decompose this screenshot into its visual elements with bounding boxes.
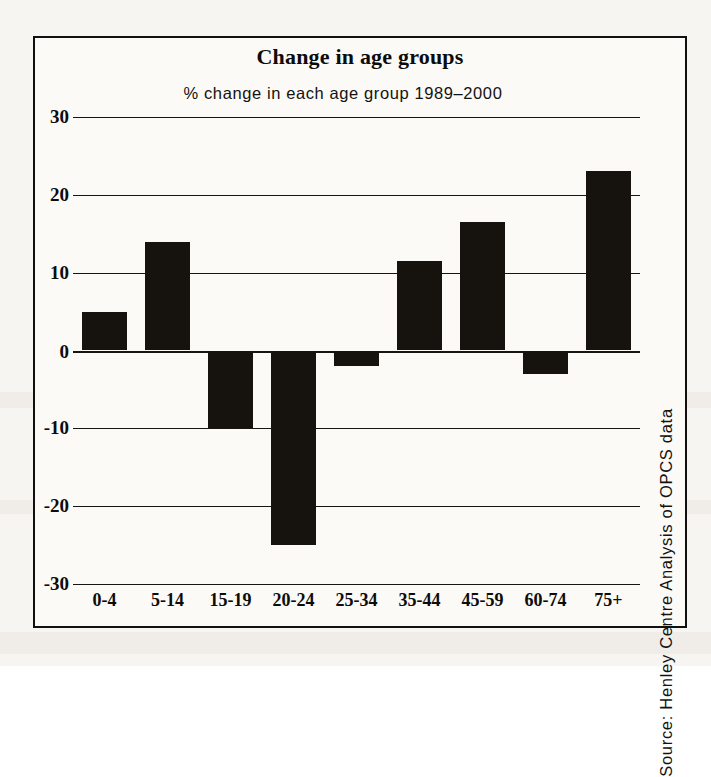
y-tick-label: 30 [50, 106, 69, 128]
x-axis-labels: 0-45-1415-1920-2425-3435-4445-5960-7475+ [73, 590, 640, 620]
y-tick-label: -10 [44, 418, 69, 440]
bar-15-19 [208, 351, 254, 429]
bar-75+ [586, 171, 632, 350]
y-tick-label: -30 [44, 573, 69, 595]
source-note: Source: Henley Centre Analysis of OPCS d… [651, 102, 681, 602]
chart-subtitle: % change in each age group 1989–2000 [35, 84, 651, 103]
bar-0-4 [82, 312, 128, 351]
bar-45-59 [460, 222, 506, 350]
y-tick-label: 20 [50, 184, 69, 206]
x-tick-label-25-34: 25-34 [336, 590, 378, 611]
chart-frame: Change in age groups % change in each ag… [33, 36, 687, 628]
y-tick-label: 10 [50, 262, 69, 284]
x-tick-label-15-19: 15-19 [210, 590, 252, 611]
x-tick-label-5-14: 5-14 [151, 590, 184, 611]
y-tick-label: -20 [44, 495, 69, 517]
y-tick-label: 0 [60, 341, 70, 363]
scan-speckle [0, 632, 711, 654]
x-tick-label-75+: 75+ [594, 590, 622, 611]
x-tick-label-45-59: 45-59 [462, 590, 504, 611]
x-tick-label-35-44: 35-44 [399, 590, 441, 611]
bar-5-14 [145, 242, 191, 351]
plot-area: 3020100-10-20-30 [73, 117, 640, 584]
x-tick-label-20-24: 20-24 [273, 590, 315, 611]
bar-20-24 [271, 351, 317, 546]
bar-25-34 [334, 351, 380, 367]
bar-35-44 [397, 261, 443, 351]
x-tick-label-0-4: 0-4 [93, 590, 117, 611]
bar-60-74 [523, 351, 569, 374]
bar-series [73, 117, 640, 584]
gridline--30: -30 [73, 584, 640, 585]
chart-title: Change in age groups [35, 44, 685, 70]
source-note-text: Source: Henley Centre Analysis of OPCS d… [657, 408, 676, 777]
x-tick-label-60-74: 60-74 [525, 590, 567, 611]
